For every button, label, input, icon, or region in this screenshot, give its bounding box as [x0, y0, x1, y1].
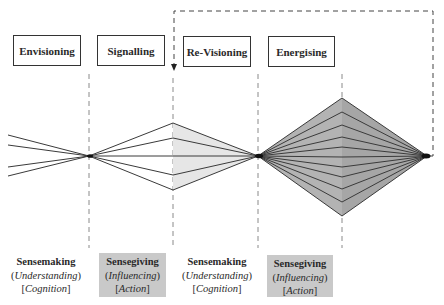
process-category: [Cognition]: [176, 282, 258, 296]
convergence-point-1: [87, 154, 93, 158]
convergence-point-3: [422, 154, 431, 159]
process-label-3: Sensemaking (Understanding) [Cognition]: [176, 253, 258, 297]
process-title: Sensegiving: [267, 257, 333, 271]
process-subtitle: (Understanding): [176, 269, 258, 283]
process-title: Sensegiving: [99, 255, 166, 269]
process-label-2: Sensegiving (Influencing) [Action]: [99, 253, 166, 297]
process-subtitle: (Influencing): [99, 269, 166, 283]
process-subtitle: (Influencing): [267, 271, 333, 285]
process-label-1: Sensemaking (Understanding) [Cognition]: [6, 253, 86, 297]
process-title: Sensemaking: [6, 255, 86, 269]
process-category: [Action]: [267, 284, 333, 298]
process-label-4: Sensegiving (Influencing) [Action]: [267, 255, 333, 297]
feedback-arrow-icon: [171, 64, 177, 71]
convergence-point-2: [255, 154, 263, 158]
process-title: Sensemaking: [176, 255, 258, 269]
process-category: [Cognition]: [6, 282, 86, 296]
envisioning-lines: [8, 135, 89, 176]
process-subtitle: (Understanding): [6, 269, 86, 283]
process-category: [Action]: [99, 282, 166, 296]
